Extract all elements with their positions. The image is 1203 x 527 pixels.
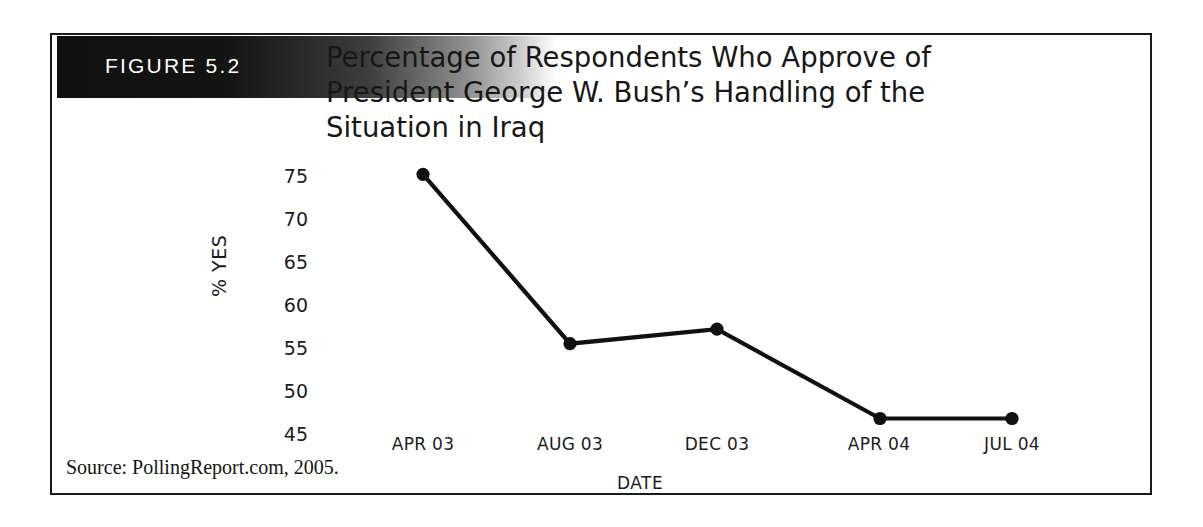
y-tick-label: 55: [262, 337, 308, 359]
y-tick-label: 45: [262, 423, 308, 445]
data-point-markers: [416, 168, 1018, 425]
data-point-marker: [1005, 412, 1018, 425]
y-tick-label: 70: [262, 208, 308, 230]
y-axis-title: % YES: [208, 235, 230, 297]
data-series-line: [423, 174, 1012, 418]
data-point-marker: [563, 337, 576, 350]
data-point-marker: [416, 168, 429, 181]
x-axis-title: DATE: [617, 473, 663, 493]
y-tick-label: 50: [262, 380, 308, 402]
y-tick-label: 75: [262, 165, 308, 187]
line-chart: 75 70 65 60 55 50 45 % YES APR 03 AUG 03…: [52, 35, 1150, 493]
data-point-marker: [873, 412, 886, 425]
x-tick-label: AUG 03: [505, 434, 635, 454]
source-note: Source: PollingReport.com, 2005.: [66, 456, 339, 479]
x-tick-label: APR 03: [358, 434, 488, 454]
x-tick-label: DEC 03: [652, 434, 782, 454]
data-point-marker: [710, 323, 723, 336]
y-tick-label: 65: [262, 251, 308, 273]
figure-frame: FIGURE 5.2 Percentage of Respondents Who…: [50, 33, 1152, 495]
y-tick-label: 60: [262, 294, 308, 316]
x-tick-label: JUL 04: [947, 434, 1077, 454]
x-tick-label: APR 04: [814, 434, 944, 454]
